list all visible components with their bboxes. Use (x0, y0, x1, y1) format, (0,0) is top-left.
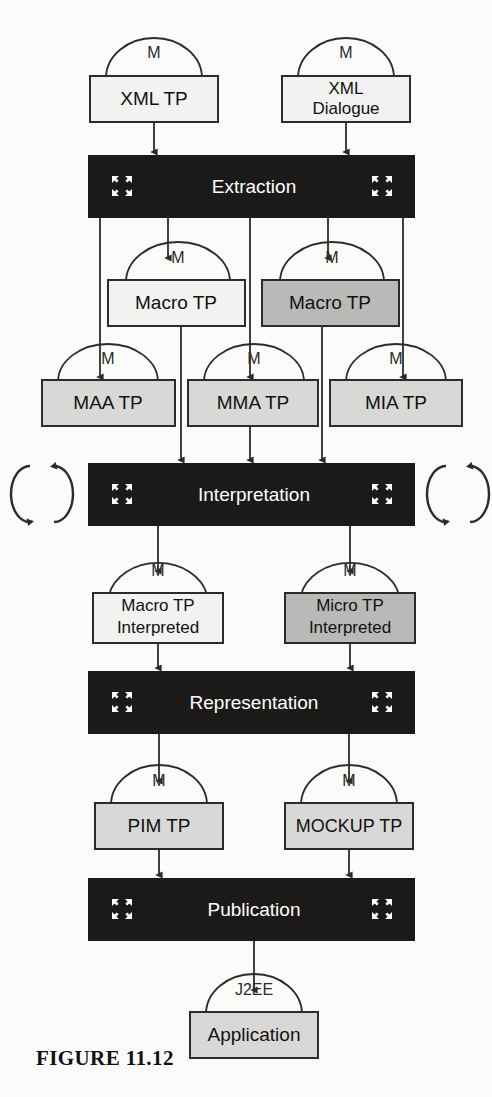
artifact-macro-tp-left-arc-label: M (171, 249, 184, 266)
figure-page: Extraction Interpretation Representation… (0, 0, 492, 1097)
artifact-application-arc-label: J2EE (235, 981, 273, 998)
artifact-pim-tp[interactable]: M PIM TP (95, 765, 223, 849)
artifact-xml-tp[interactable]: M XML TP (90, 38, 218, 122)
artifact-micro-tp-interpreted[interactable]: M Micro TP Interpreted (285, 562, 415, 643)
artifact-maa-tp-arc-label: M (101, 350, 114, 367)
artifact-mia-tp-label: MIA TP (365, 392, 427, 413)
stage-publication-label: Publication (208, 899, 301, 920)
artifact-pim-tp-label: PIM TP (128, 815, 191, 836)
artifact-maa-tp-label: MAA TP (73, 392, 142, 413)
artifact-macro-tp-interpreted[interactable]: M Macro TP Interpreted (93, 562, 223, 643)
artifact-maa-tp[interactable]: M MAA TP (42, 344, 175, 426)
artifact-pim-tp-arc-label: M (152, 772, 165, 789)
stage-representation-label: Representation (190, 692, 319, 713)
stage-interpretation-label: Interpretation (198, 484, 310, 505)
artifact-application[interactable]: J2EE Application (190, 974, 318, 1058)
artifact-micro-tp-interpreted-arc-label: M (343, 562, 356, 579)
artifact-macro-tp-interpreted-label-line1: Macro TP (121, 596, 194, 615)
artifact-xml-tp-arc-label: M (147, 44, 160, 61)
architecture-flow-diagram: Extraction Interpretation Representation… (0, 0, 492, 1097)
artifact-xml-dialogue-label-line2: Dialogue (312, 99, 379, 118)
flow-connectors (100, 122, 403, 990)
artifact-mia-tp-arc-label: M (389, 350, 402, 367)
figure-caption: FIGURE 11.12 (36, 1046, 174, 1071)
artifact-macro-tp-left[interactable]: M Macro TP (108, 242, 245, 326)
artifact-xml-tp-label: XML TP (120, 88, 188, 109)
artifact-mma-tp-label: MMA TP (217, 392, 290, 413)
stage-interpretation[interactable]: Interpretation (88, 463, 415, 526)
stage-representation[interactable]: Representation (88, 671, 415, 734)
artifact-xml-dialogue[interactable]: M XML Dialogue (282, 38, 410, 122)
stage-extraction[interactable]: Extraction (88, 155, 415, 218)
artifact-micro-tp-interpreted-label-line2: Interpreted (309, 618, 391, 637)
loop-icon-left (11, 466, 73, 522)
artifact-macro-tp-right-arc-label: M (325, 249, 338, 266)
artifact-mma-tp[interactable]: M MMA TP (188, 344, 318, 426)
artifact-mia-tp[interactable]: M MIA TP (330, 344, 462, 426)
artifact-xml-dialogue-label-line1: XML (329, 79, 364, 98)
artifact-micro-tp-interpreted-label-line1: Micro TP (316, 596, 384, 615)
artifact-macro-tp-interpreted-label-line2: Interpreted (117, 618, 199, 637)
artifact-mma-tp-arc-label: M (247, 350, 260, 367)
artifact-mockup-tp-label: MOCKUP TP (296, 816, 402, 836)
artifact-xml-dialogue-arc-label: M (339, 44, 352, 61)
stage-publication[interactable]: Publication (88, 878, 415, 941)
artifact-mockup-tp[interactable]: M MOCKUP TP (285, 765, 413, 849)
artifact-macro-tp-interpreted-arc-label: M (151, 562, 164, 579)
artifact-application-label: Application (208, 1024, 301, 1045)
artifact-macro-tp-left-label: Macro TP (135, 292, 217, 313)
artifact-macro-tp-right-label: Macro TP (289, 292, 371, 313)
stage-extraction-label: Extraction (212, 176, 296, 197)
loop-icon-right (427, 466, 489, 522)
artifact-mockup-tp-arc-label: M (342, 772, 355, 789)
artifact-macro-tp-right[interactable]: M Macro TP (262, 242, 399, 326)
